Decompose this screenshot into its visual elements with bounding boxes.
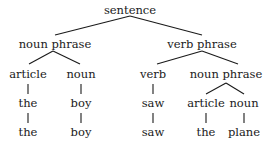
node-verb: verb: [140, 68, 166, 80]
parse-tree-diagram: sentence noun phrase verb phrase article…: [0, 0, 273, 147]
node-saw: saw: [142, 97, 165, 109]
node-boy: boy: [71, 97, 92, 109]
node-article-2: article: [187, 97, 225, 109]
edge-sentence-vp: [130, 16, 202, 35]
word-the: the: [19, 126, 38, 138]
edge-np-article: [29, 51, 53, 64]
node-sentence: sentence: [104, 4, 156, 16]
node-noun: noun: [66, 68, 95, 80]
node-article: article: [9, 68, 47, 80]
edge-np2-article: [206, 83, 226, 94]
node-verb-phrase: verb phrase: [167, 38, 237, 50]
word-saw: saw: [142, 126, 165, 138]
edge-vp-np: [202, 51, 238, 64]
edge-sentence-np: [55, 16, 130, 35]
node-noun-phrase-2: noun phrase: [190, 68, 263, 80]
node-noun-2: noun: [229, 97, 258, 109]
edge-vp-verb: [157, 51, 202, 64]
node-noun-phrase: noun phrase: [19, 38, 92, 50]
word-boy: boy: [71, 126, 92, 138]
edge-np-noun: [53, 51, 80, 64]
edge-np2-noun: [226, 83, 244, 94]
word-the-2: the: [197, 126, 216, 138]
node-the: the: [19, 97, 38, 109]
word-plane: plane: [228, 126, 260, 138]
